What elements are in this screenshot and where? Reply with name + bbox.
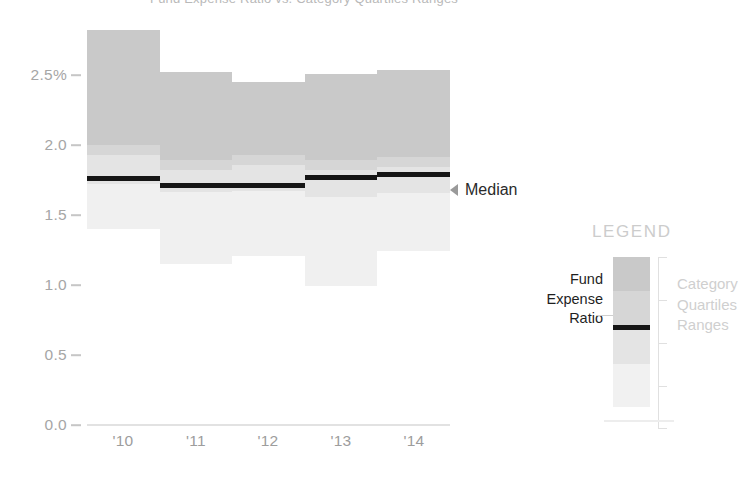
y-axis: 2.5% 2.0 1.5 1.0 0.5 0.0 xyxy=(0,0,87,487)
x-axis-line xyxy=(87,424,450,426)
y-tick-mark-0-0 xyxy=(71,424,81,426)
legend-category-line-2: Quartiles xyxy=(677,295,738,316)
median-callout: Median xyxy=(450,181,517,199)
legend-category-line-1: Category xyxy=(677,274,738,295)
band-column-2013 xyxy=(305,24,378,428)
legend-footnote-rule xyxy=(604,420,674,422)
chart-root: Fund Expense Ratio vs. Category Quartile… xyxy=(0,0,753,487)
legend-bracket-tick-4 xyxy=(658,386,667,387)
band-segment-range-low xyxy=(305,197,378,286)
band-segment-range-low xyxy=(377,193,450,251)
legend-title: LEGEND xyxy=(592,222,672,242)
median-line-2012 xyxy=(232,183,305,188)
legend-bracket-tick-2 xyxy=(658,300,667,301)
x-tick-label-2011: '11 xyxy=(186,432,206,450)
triangle-left-icon xyxy=(450,184,458,196)
median-line-2013 xyxy=(305,175,378,180)
band-segment-range-low xyxy=(160,192,233,264)
x-tick-label-2012: '12 xyxy=(257,432,278,450)
x-tick-label-2013: '13 xyxy=(330,432,351,450)
band-segment-q1 xyxy=(160,170,233,192)
legend-leader-line xyxy=(597,315,614,316)
legend-bracket-tick-3 xyxy=(658,343,667,344)
legend-swatch-q3 xyxy=(613,291,650,325)
band-segment-q1 xyxy=(377,167,450,193)
y-tick-mark-1-5 xyxy=(71,214,81,216)
band-segment-q3 xyxy=(305,160,378,170)
legend-bracket xyxy=(658,257,671,429)
band-segment-q3 xyxy=(377,157,450,167)
x-tick-label-2014: '14 xyxy=(403,432,424,450)
y-tick-mark-2-5 xyxy=(71,74,81,76)
band-segment-q3 xyxy=(232,155,305,165)
band-segment-range-high xyxy=(377,70,450,157)
band-segment-range-high xyxy=(232,82,305,155)
band-column-2010 xyxy=(87,24,160,428)
band-segment-q3 xyxy=(87,145,160,155)
legend-bracket-tick-bottom xyxy=(658,428,667,429)
band-segment-range-high xyxy=(160,72,233,160)
median-line-2010 xyxy=(87,176,160,181)
legend-fund-line-2: Expense xyxy=(533,290,603,310)
band-segment-q3 xyxy=(160,160,233,170)
legend-swatch-q1 xyxy=(613,330,650,364)
y-tick-mark-2-0 xyxy=(71,144,81,146)
band-column-2014 xyxy=(377,24,450,428)
legend-swatch-range-high xyxy=(613,257,650,291)
y-tick-mark-0-5 xyxy=(71,354,81,356)
band-column-2012 xyxy=(232,24,305,428)
band-segment-range-low xyxy=(87,184,160,229)
plot-area xyxy=(87,24,450,428)
band-segment-range-high xyxy=(87,30,160,145)
legend: LEGEND Fund Expense Ratio Category Quart… xyxy=(540,222,753,432)
legend-fund-line-3: Ratio xyxy=(533,309,603,329)
band-segment-range-low xyxy=(232,191,305,256)
legend-fund-expense-ratio-label: Fund Expense Ratio xyxy=(533,270,603,329)
band-segment-range-high xyxy=(305,74,378,160)
legend-category-quartiles-label: Category Quartiles Ranges xyxy=(677,274,738,336)
quartile-bands xyxy=(87,24,450,428)
median-line-2011 xyxy=(160,183,233,188)
legend-swatch xyxy=(613,257,650,407)
legend-swatch-range-low xyxy=(613,364,650,407)
median-callout-label: Median xyxy=(465,181,517,199)
legend-bracket-tick-top xyxy=(658,257,667,258)
band-column-2011 xyxy=(160,24,233,428)
legend-fund-line-1: Fund xyxy=(533,270,603,290)
y-tick-mark-1-0 xyxy=(71,284,81,286)
legend-category-line-3: Ranges xyxy=(677,315,738,336)
x-tick-label-2010: '10 xyxy=(112,432,133,450)
median-line-2014 xyxy=(377,172,450,177)
chart-title: Fund Expense Ratio vs. Category Quartile… xyxy=(150,0,458,6)
